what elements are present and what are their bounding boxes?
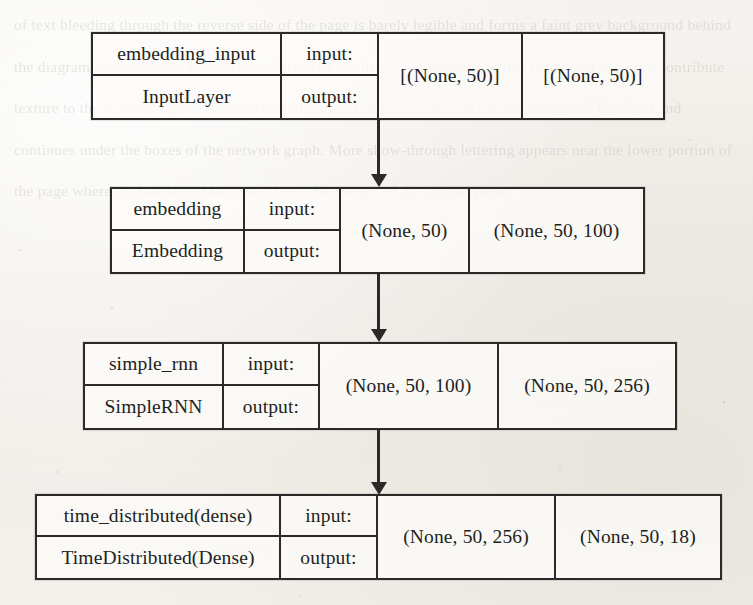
input-shape: (None, 50, 256): [378, 496, 556, 578]
input-label: input:: [245, 189, 339, 231]
model-architecture-diagram: embedding_input InputLayer input: output…: [0, 0, 753, 605]
layer-node-simple_rnn[interactable]: simple_rnn SimpleRNN input: output: (Non…: [83, 342, 677, 430]
output-label: output:: [282, 76, 377, 118]
input-shape: (None, 50, 100): [320, 344, 499, 428]
output-shape: (None, 50, 256): [499, 344, 675, 428]
layer-identity-column: simple_rnn SimpleRNN: [85, 344, 224, 428]
layer-type: InputLayer: [93, 76, 280, 118]
layer-type: Embedding: [112, 231, 243, 273]
input-shape: [(None, 50)]: [379, 34, 523, 118]
output-shape: (None, 50, 100): [470, 189, 643, 272]
layer-identity-column: time_distributed(dense) TimeDistributed(…: [37, 496, 281, 578]
layer-name: embedding_input: [93, 34, 280, 76]
output-shape: [(None, 50)]: [523, 34, 663, 118]
output-label: output:: [245, 231, 339, 273]
layer-name: embedding: [112, 189, 243, 231]
io-label-column: input: output:: [281, 496, 378, 578]
output-label: output:: [224, 386, 318, 428]
layer-name: time_distributed(dense): [37, 496, 279, 537]
layer-identity-column: embedding Embedding: [112, 189, 245, 272]
io-label-column: input: output:: [224, 344, 320, 428]
output-shape: (None, 50, 18): [556, 496, 720, 578]
layer-name: simple_rnn: [85, 344, 222, 386]
input-label: input:: [224, 344, 318, 386]
output-label: output:: [281, 537, 376, 578]
layer-type: TimeDistributed(Dense): [37, 537, 279, 578]
io-label-column: input: output:: [282, 34, 379, 118]
io-label-column: input: output:: [245, 189, 341, 272]
input-label: input:: [282, 34, 377, 76]
input-shape: (None, 50): [341, 189, 470, 272]
layer-node-embedding_input[interactable]: embedding_input InputLayer input: output…: [91, 32, 665, 120]
layer-node-time_distributed[interactable]: time_distributed(dense) TimeDistributed(…: [35, 494, 722, 580]
input-label: input:: [281, 496, 376, 537]
layer-node-embedding[interactable]: embedding Embedding input: output: (None…: [110, 187, 645, 274]
layer-identity-column: embedding_input InputLayer: [93, 34, 282, 118]
layer-type: SimpleRNN: [85, 386, 222, 428]
